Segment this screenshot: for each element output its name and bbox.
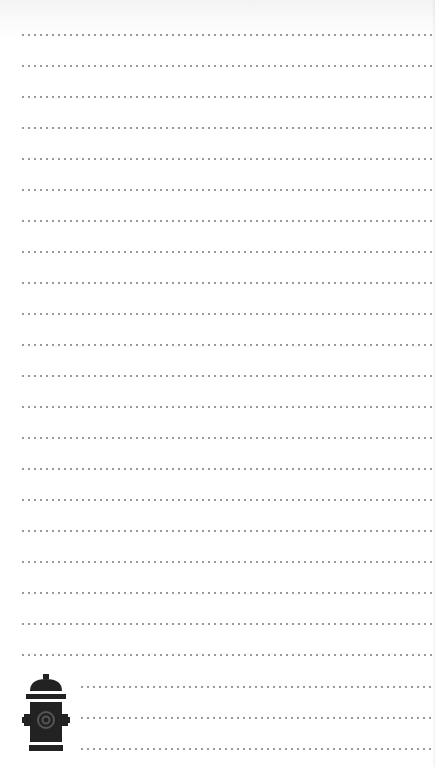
ruled-line xyxy=(20,592,435,594)
ruled-line xyxy=(20,561,435,563)
ruled-line xyxy=(20,65,435,67)
ruled-line xyxy=(20,282,435,284)
notepad-page xyxy=(0,0,435,767)
ruled-line-short xyxy=(79,686,435,688)
ruled-line xyxy=(20,220,435,222)
ruled-line xyxy=(20,623,435,625)
ruled-line xyxy=(20,437,435,439)
ruled-line xyxy=(20,313,435,315)
ruled-line xyxy=(20,375,435,377)
ruled-line xyxy=(20,96,435,98)
ruled-line xyxy=(20,251,435,253)
ruled-line xyxy=(20,499,435,501)
ruled-line xyxy=(20,530,435,532)
ruled-line xyxy=(20,344,435,346)
ruled-line xyxy=(20,468,435,470)
ruled-line-short xyxy=(79,717,435,719)
fire-hydrant-icon xyxy=(22,674,70,754)
ruled-line xyxy=(20,406,435,408)
ruled-line-short xyxy=(79,748,435,750)
ruled-line xyxy=(20,158,435,160)
ruled-line xyxy=(20,654,435,656)
ruled-line xyxy=(20,189,435,191)
ruled-line xyxy=(20,34,435,36)
ruled-line xyxy=(20,127,435,129)
